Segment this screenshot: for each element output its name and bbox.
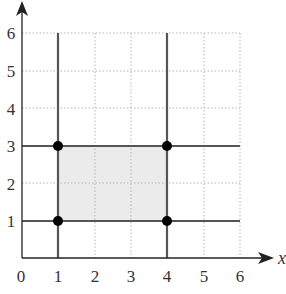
tick-x-2: 2 [91, 267, 100, 286]
point-4-1 [162, 216, 172, 226]
point-1-3 [53, 141, 63, 151]
tick-y-2: 2 [7, 175, 16, 194]
x-axis-label: x [277, 248, 286, 268]
tick-x-6: 6 [236, 267, 245, 286]
y-tick-labels: 1 2 3 4 5 6 [7, 24, 16, 231]
tick-y-6: 6 [7, 24, 16, 43]
diagram-canvas: 0 1 2 3 4 5 6 1 2 3 4 5 6 x [0, 0, 286, 294]
point-1-1 [53, 216, 63, 226]
tick-y-5: 5 [7, 62, 16, 81]
point-4-3 [162, 141, 172, 151]
tick-x-5: 5 [200, 267, 209, 286]
tick-x-1: 1 [54, 267, 63, 286]
tick-y-4: 4 [7, 100, 16, 119]
tick-x-0: 0 [17, 267, 26, 286]
tick-y-1: 1 [7, 212, 16, 231]
shaded-region [58, 146, 167, 221]
tick-y-3: 3 [7, 137, 16, 156]
x-tick-labels: 0 1 2 3 4 5 6 [17, 267, 245, 286]
tick-x-4: 4 [163, 267, 172, 286]
tick-x-3: 3 [127, 267, 136, 286]
